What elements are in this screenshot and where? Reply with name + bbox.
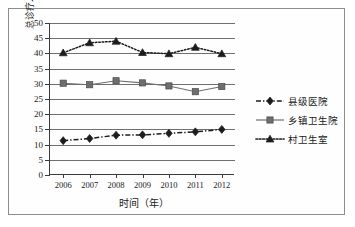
- data-point-triangle: [191, 44, 199, 51]
- legend-key-triangle: [255, 133, 285, 145]
- data-point-triangle: [59, 49, 67, 56]
- chart-figure: 总诊疗人次数占农村地区比重（%） 05101520253035404550 20…: [8, 8, 345, 215]
- data-point-diamond: [86, 135, 93, 143]
- legend-item-1[interactable]: 县级医院: [255, 91, 343, 110]
- y-tick-label: 25: [21, 94, 43, 104]
- y-tick-label: 30: [21, 79, 43, 89]
- legend-label: 乡镇卫生院: [288, 113, 338, 127]
- x-tick-label: 2006: [55, 180, 72, 190]
- y-tick-label: 0: [21, 170, 43, 180]
- data-point-diamond: [113, 131, 120, 139]
- legend-item-2[interactable]: 乡镇卫生院: [255, 110, 343, 129]
- data-point-square: [166, 83, 172, 89]
- legend-label: 县级医院: [288, 94, 328, 108]
- y-tick: [45, 175, 50, 176]
- series-1: [60, 125, 225, 144]
- x-tick-label: 2011: [187, 180, 204, 190]
- y-tick-label: 35: [21, 64, 43, 74]
- legend-item-3[interactable]: 村卫生室: [255, 129, 343, 148]
- x-tick-label: 2010: [160, 180, 177, 190]
- data-point-diamond: [218, 125, 225, 133]
- chart-legend: 县级医院乡镇卫生院村卫生室: [255, 91, 343, 148]
- y-tick-label: 50: [21, 18, 43, 28]
- data-point-diamond: [166, 129, 173, 137]
- x-tick-label: 2012: [213, 180, 230, 190]
- x-tick-label: 2007: [81, 180, 98, 190]
- data-point-diamond: [192, 128, 199, 136]
- data-point-diamond: [139, 131, 146, 139]
- data-point-square: [192, 89, 198, 95]
- y-tick-label: 45: [21, 33, 43, 43]
- data-point-square: [219, 83, 225, 89]
- x-axis-title: 时间（年）: [49, 195, 239, 210]
- data-point-diamond: [60, 137, 67, 145]
- data-point-square: [60, 80, 66, 86]
- series-3: [59, 37, 225, 56]
- legend-key-square: [255, 114, 285, 126]
- x-tick-label: 2009: [134, 180, 151, 190]
- y-tick-label: 15: [21, 124, 43, 134]
- data-point-square: [267, 116, 273, 122]
- plot-area: 05101520253035404550 2006200720082009201…: [49, 23, 234, 175]
- y-tick-label: 40: [21, 48, 43, 58]
- data-point-diamond: [267, 97, 274, 105]
- data-point-square: [87, 82, 93, 88]
- series-layer: [50, 23, 235, 175]
- y-tick-label: 5: [21, 155, 43, 165]
- legend-key-diamond: [255, 95, 285, 107]
- legend-label: 村卫生室: [288, 132, 328, 146]
- series-2: [60, 78, 225, 95]
- y-tick-label: 20: [21, 109, 43, 119]
- data-point-square: [113, 78, 119, 84]
- data-point-square: [139, 80, 145, 86]
- x-tick-label: 2008: [108, 180, 125, 190]
- y-tick-label: 10: [21, 140, 43, 150]
